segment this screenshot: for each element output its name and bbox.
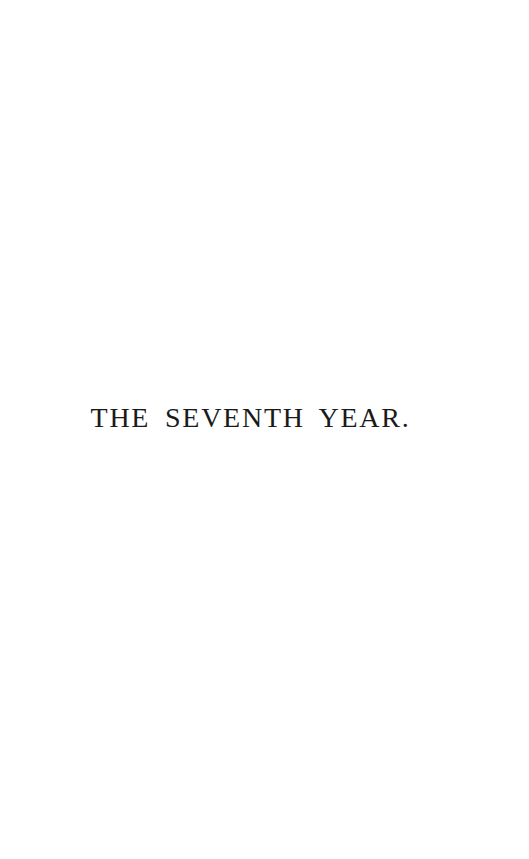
section-title: THE SEVENTH YEAR. bbox=[91, 404, 411, 432]
section-title-block: THE SEVENTH YEAR. bbox=[0, 404, 529, 432]
scanned-page: THE SEVENTH YEAR. bbox=[0, 0, 529, 859]
